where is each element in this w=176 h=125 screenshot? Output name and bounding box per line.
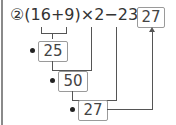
step-2-box: 50 <box>58 71 88 92</box>
final-answer-box: 27 <box>137 7 165 28</box>
step-1-box: 25 <box>38 41 68 62</box>
step-3-box: 27 <box>78 100 108 121</box>
final-answer-value: 27 <box>141 8 160 26</box>
page-edge-line <box>1 0 3 125</box>
step-3-horizontal-line <box>107 109 153 110</box>
step-2-value: 50 <box>63 72 82 90</box>
step-1-value: 25 <box>43 42 62 60</box>
step-2-marker <box>50 78 55 83</box>
answer-vertical-line <box>152 32 153 110</box>
step-3-marker <box>70 107 75 112</box>
step-1-marker <box>30 48 35 53</box>
bracket-bottom <box>41 33 67 34</box>
times-2-vertical-line <box>91 27 92 71</box>
minus-23-vertical-line <box>116 27 117 101</box>
arrow-up-icon <box>149 27 155 32</box>
expression-text: (16+9)×2−23= <box>24 5 151 24</box>
problem-expression: ②(16+9)×2−23= <box>10 5 152 24</box>
problem-number: ② <box>10 5 24 24</box>
step-3-value: 27 <box>83 101 102 119</box>
bracket-stem <box>52 33 53 39</box>
